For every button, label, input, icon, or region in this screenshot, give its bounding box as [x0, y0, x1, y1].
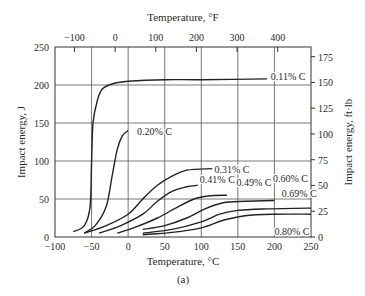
- x-tick-label: 150: [230, 241, 245, 252]
- x2-tick-label: 300: [230, 32, 245, 43]
- curve-041pct-c: [99, 185, 198, 233]
- x-tick-label: 200: [267, 241, 282, 252]
- x2-tick-label: 200: [189, 32, 204, 43]
- y2-tick-label: 50: [318, 180, 328, 191]
- y-tick-label: 100: [34, 156, 49, 167]
- y-tick-label: 200: [34, 80, 49, 91]
- x-tick-label: 50: [160, 241, 170, 252]
- series-curves: [73, 79, 311, 235]
- curve-label: 0.60% C: [273, 173, 308, 184]
- x-tick-label: 250: [304, 241, 319, 252]
- bottom-axis-title: Temperature, °C: [147, 255, 220, 267]
- y2-tick-label: 0: [318, 232, 323, 243]
- y2-tick-label: 150: [318, 77, 333, 88]
- curve-label: 0.31% C: [214, 164, 249, 175]
- curve-label: 0.69% C: [282, 188, 317, 199]
- x-tick-label: −50: [84, 241, 100, 252]
- curve-label: 0.49% C: [236, 177, 271, 188]
- y-tick-label: 50: [39, 194, 49, 205]
- curve-049pct-c: [117, 195, 227, 233]
- curve-031pct-c: [84, 169, 212, 234]
- x2-tick-label: −100: [64, 32, 85, 43]
- y-tick-label: 250: [34, 42, 49, 53]
- impact-energy-chart: −100−50050100150200250050100150200250−10…: [0, 0, 365, 296]
- figure-caption: (a): [177, 273, 190, 286]
- x-tick-label: 100: [194, 241, 209, 252]
- y2-tick-label: 175: [318, 52, 333, 63]
- y2-tick-label: 100: [318, 129, 333, 140]
- y2-tick-label: 25: [318, 206, 328, 217]
- right-axis-title: Impact energy, ft·lb: [342, 98, 354, 185]
- x2-tick-label: 400: [270, 32, 285, 43]
- top-axis-title: Temperature, °F: [147, 11, 218, 23]
- y-tick-label: 150: [34, 118, 49, 129]
- y2-tick-label: 125: [318, 103, 333, 114]
- curve-label: 0.20% C: [137, 126, 172, 137]
- curve-label: 0.11% C: [271, 71, 306, 82]
- left-axis-title: Impact energy, J: [15, 105, 27, 178]
- y2-tick-label: 75: [318, 155, 328, 166]
- curve-label: 0.41% C: [200, 174, 235, 185]
- curve-label: 0.80% C: [274, 226, 309, 237]
- y-tick-label: 0: [44, 232, 49, 243]
- x-tick-label: 0: [126, 241, 131, 252]
- x2-tick-label: 0: [113, 32, 118, 43]
- x2-tick-label: 100: [148, 32, 163, 43]
